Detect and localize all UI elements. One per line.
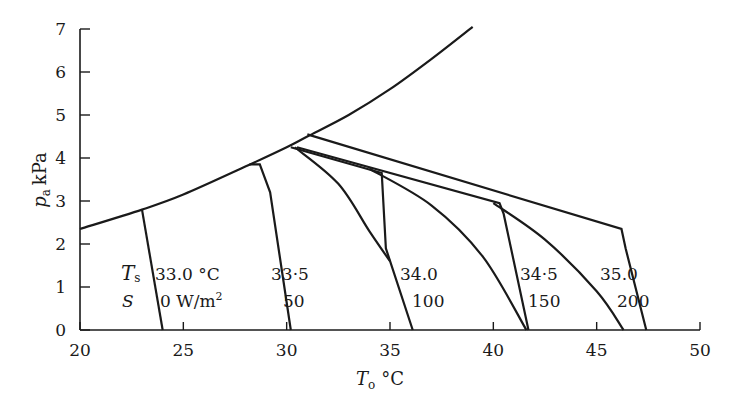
y-tick-label: 2 <box>55 234 66 254</box>
x-tick-label: 30 <box>276 340 298 360</box>
x-tick-label: 35 <box>379 340 401 360</box>
x-tick-label: 45 <box>586 340 608 360</box>
s-row-label: S <box>122 291 134 311</box>
s-value-0: 0 W/m2 <box>160 290 223 311</box>
series-line <box>295 147 390 261</box>
y-tick-label: 1 <box>55 277 66 297</box>
y-tick-label: 6 <box>55 62 66 82</box>
y-tick-label: 0 <box>55 320 66 340</box>
ts-value-33-0: 33.0 °C <box>155 264 220 284</box>
y-tick-label: 3 <box>55 191 66 211</box>
ts-value-34-5: 34·5 <box>520 264 558 284</box>
x-tick-label: 20 <box>69 340 91 360</box>
x-axis-title: To°C <box>356 368 404 392</box>
y-tick-label: 5 <box>55 105 66 125</box>
s-value-200: 200 <box>617 291 649 311</box>
series-lines <box>80 27 646 330</box>
s-value-100: 100 <box>412 291 444 311</box>
ts-value-33-5: 33·5 <box>271 264 309 284</box>
y-tick-label: 7 <box>55 19 66 39</box>
vapour-pressure-chart: 2025303540455001234567 pakPa To°C Ts S 3… <box>0 0 731 410</box>
s-value-150: 150 <box>528 291 560 311</box>
y-axis-title: pakPa <box>29 152 53 208</box>
ts-value-34-0: 34.0 <box>400 264 438 284</box>
ts-value-35-0: 35.0 <box>600 264 638 284</box>
ts-row-label: Ts <box>121 261 141 285</box>
y-tick-label: 4 <box>55 148 66 168</box>
x-tick-label: 40 <box>483 340 505 360</box>
x-tick-label: 50 <box>689 340 711 360</box>
s-value-50: 50 <box>283 291 305 311</box>
x-tick-label: 25 <box>173 340 195 360</box>
saturation-curve <box>80 27 473 229</box>
